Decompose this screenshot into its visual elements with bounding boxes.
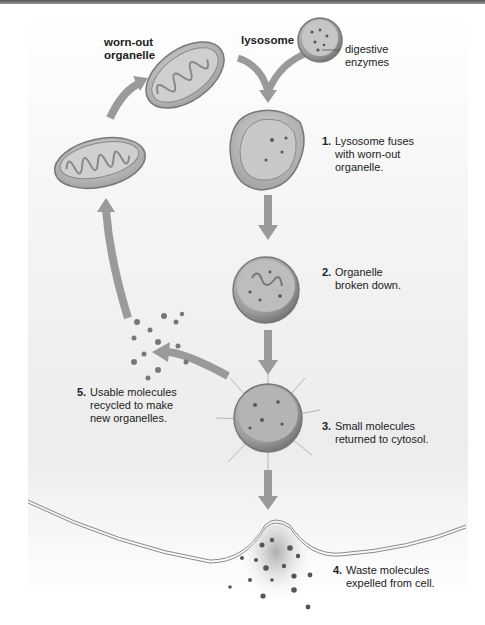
digestive-enzymes-label: digestive enzymes	[345, 43, 389, 69]
label-line: enzymes	[345, 56, 389, 69]
broken-down-organelle-image	[233, 257, 299, 323]
label-line: worn-out	[104, 36, 155, 49]
step-2-label: 2. Organellebroken down.	[322, 266, 401, 292]
step-4-label: 4. Waste moleculesexpelled from cell.	[333, 564, 435, 590]
arrow-recycle	[162, 352, 228, 376]
arrow-to-top-organelle	[110, 84, 138, 118]
step-1-label: 1. Lysosome fuseswith worn-outorganelle.	[322, 135, 414, 174]
step-line: organelle.	[335, 161, 414, 174]
step-line: recycled to make	[90, 399, 177, 412]
label-line: digestive	[345, 43, 389, 56]
new-organelle-image	[50, 130, 150, 196]
usable-molecules-image	[131, 312, 189, 381]
step-number: 3.	[322, 420, 335, 446]
arrow-step2-to-3	[264, 330, 272, 362]
label-line: organelle	[104, 49, 155, 62]
fused-organelle-image	[230, 110, 304, 190]
step-line: new organelles.	[90, 412, 177, 425]
step-line: expelled from cell.	[346, 577, 435, 590]
autophagy-diagram	[0, 0, 485, 625]
step-line: Small molecules	[335, 420, 429, 433]
step-number: 1.	[322, 135, 335, 174]
arrow-step3-to-4	[264, 470, 272, 498]
lysosome-image	[298, 18, 342, 62]
step-line: Usable molecules	[90, 386, 177, 399]
arrow-fusion	[238, 52, 310, 92]
step-3-label: 3. Small moleculesreturned to cytosol.	[322, 420, 429, 446]
arrow-head-fusion	[259, 90, 277, 103]
arrow-step1-to-2	[264, 195, 272, 227]
worn-out-organelle-label: worn-out organelle	[104, 36, 155, 62]
step-number: 4.	[333, 564, 346, 590]
lysosome-label: lysosome	[241, 34, 294, 47]
step-5-label: 5. Usable moleculesrecycled to makenew o…	[77, 386, 177, 425]
step-line: returned to cytosol.	[335, 433, 429, 446]
step-line: broken down.	[335, 279, 401, 292]
waste-cloud	[244, 525, 308, 615]
arrow-to-left-organelle	[106, 210, 128, 318]
step-number: 5.	[77, 386, 90, 425]
step-number: 2.	[322, 266, 335, 292]
step-line: with worn-out	[335, 148, 414, 161]
step-line: Organelle	[335, 266, 401, 279]
step-line: Waste molecules	[346, 564, 435, 577]
small-molecules-sphere-image	[216, 372, 320, 470]
step-line: Lysosome fuses	[335, 135, 414, 148]
